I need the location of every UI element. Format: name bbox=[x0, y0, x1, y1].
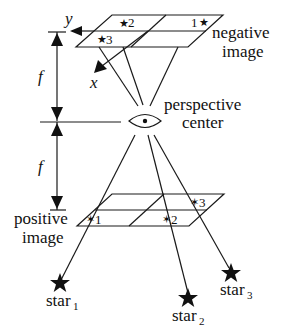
negative-image-label-2: image bbox=[222, 42, 264, 61]
focal-length-dimension-bottom: f bbox=[38, 122, 66, 210]
svg-text:1: 1 bbox=[95, 212, 102, 227]
focal-length-dimension-top: f bbox=[38, 32, 66, 121]
arrowhead-icon bbox=[51, 33, 63, 46]
star-icon bbox=[178, 288, 198, 307]
x-axis-label: x bbox=[89, 73, 98, 92]
negative-image-star-2: ★ 2 bbox=[119, 15, 135, 30]
arrowhead-icon bbox=[94, 60, 107, 73]
svg-text:1: 1 bbox=[73, 300, 79, 312]
star-icon bbox=[50, 273, 70, 292]
svg-text:star: star bbox=[220, 280, 245, 299]
focal-length-label: f bbox=[38, 67, 45, 86]
negative-image-star-1: 1 ★ bbox=[191, 15, 209, 30]
star-2: star 2 bbox=[172, 288, 205, 327]
positive-image-star-1: ✶ 1 bbox=[86, 212, 102, 227]
negative-image-star-3: ★ 3 bbox=[97, 32, 113, 47]
svg-text:3: 3 bbox=[106, 32, 113, 47]
arrowhead-icon bbox=[51, 196, 63, 209]
svg-text:2: 2 bbox=[128, 15, 135, 30]
perspective-projection-diagram: y x ★ 2 1 ★ ★ 3 negative image f bbox=[0, 0, 282, 335]
arrowhead-icon bbox=[51, 123, 63, 136]
positive-image-label-2: image bbox=[22, 228, 64, 247]
positive-image-label: positive bbox=[14, 209, 68, 228]
svg-text:star: star bbox=[172, 306, 197, 325]
svg-text:star: star bbox=[46, 291, 71, 310]
star-icon: ✶ bbox=[162, 213, 171, 225]
negative-image-label: negative bbox=[212, 23, 270, 42]
star-icon: ★ bbox=[199, 16, 209, 28]
positive-image-star-2: ✶ 2 bbox=[162, 212, 178, 227]
perspective-center-label: perspective bbox=[164, 95, 241, 114]
focal-length-label: f bbox=[38, 157, 45, 176]
svg-text:2: 2 bbox=[171, 212, 178, 227]
positive-image-star-3: ✶ 3 bbox=[190, 195, 206, 210]
star-icon: ✶ bbox=[190, 196, 199, 208]
svg-text:3: 3 bbox=[199, 195, 206, 210]
perspective-center-label-2: center bbox=[182, 113, 224, 132]
y-axis-label: y bbox=[63, 9, 73, 28]
arrowhead-icon bbox=[51, 107, 63, 120]
eye-icon bbox=[129, 115, 161, 128]
y-axis-arrow: y bbox=[63, 9, 94, 36]
star-icon: ✶ bbox=[86, 213, 95, 225]
svg-text:2: 2 bbox=[199, 315, 205, 327]
svg-text:1: 1 bbox=[191, 15, 198, 30]
star-3: star 3 bbox=[220, 263, 253, 301]
svg-text:3: 3 bbox=[247, 289, 253, 301]
